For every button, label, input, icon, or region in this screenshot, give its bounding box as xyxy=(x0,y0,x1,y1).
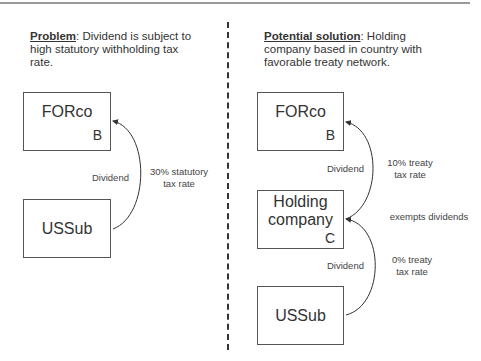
statutory-rate-label: 30% statutory tax rate xyxy=(143,166,215,190)
treaty-rate-0-label: 0% treaty tax rate xyxy=(382,254,442,278)
statutory-rate-line2: tax rate xyxy=(143,178,215,190)
treaty-rate-10-line2: tax rate xyxy=(380,169,440,181)
statutory-rate-line1: 30% statutory xyxy=(143,166,215,178)
dividend-label-upper: Dividend xyxy=(327,163,364,175)
treaty-rate-10-line1: 10% treaty xyxy=(380,157,440,169)
dividend-label-lower: Dividend xyxy=(327,260,364,272)
dividend-label-left: Dividend xyxy=(92,172,129,184)
treaty-rate-0-line1: 0% treaty xyxy=(382,254,442,266)
exempts-dividends-label: exempts dividends xyxy=(382,211,476,223)
treaty-rate-0-line2: tax rate xyxy=(382,266,442,278)
treaty-rate-10-label: 10% treaty tax rate xyxy=(380,157,440,181)
